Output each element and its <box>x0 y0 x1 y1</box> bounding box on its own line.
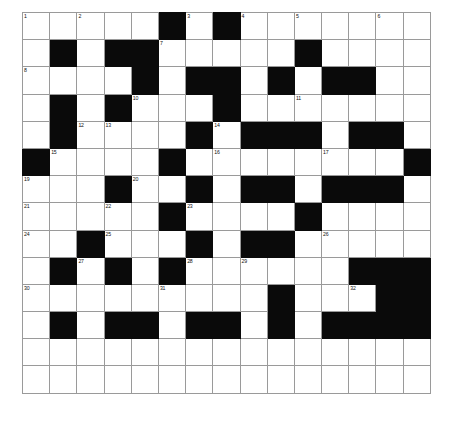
crossword-open-cell[interactable] <box>77 94 104 121</box>
crossword-open-cell[interactable] <box>213 203 240 230</box>
crossword-open-cell[interactable]: 15 <box>50 148 77 175</box>
crossword-open-cell[interactable] <box>376 148 403 175</box>
crossword-open-cell[interactable] <box>349 230 376 257</box>
crossword-open-cell[interactable] <box>403 67 430 94</box>
crossword-open-cell[interactable] <box>376 94 403 121</box>
crossword-open-cell[interactable] <box>240 339 267 366</box>
crossword-open-cell[interactable]: 27 <box>77 257 104 284</box>
crossword-open-cell[interactable] <box>186 339 213 366</box>
crossword-open-cell[interactable] <box>322 121 349 148</box>
crossword-open-cell[interactable] <box>104 339 131 366</box>
crossword-open-cell[interactable] <box>131 366 158 393</box>
crossword-open-cell[interactable] <box>50 203 77 230</box>
crossword-open-cell[interactable] <box>240 284 267 311</box>
crossword-open-cell[interactable] <box>131 148 158 175</box>
crossword-open-cell[interactable] <box>349 13 376 40</box>
crossword-open-cell[interactable] <box>376 230 403 257</box>
crossword-open-cell[interactable] <box>213 257 240 284</box>
crossword-open-cell[interactable]: 1 <box>23 13 50 40</box>
crossword-open-cell[interactable] <box>322 203 349 230</box>
crossword-open-cell[interactable]: 21 <box>23 203 50 230</box>
crossword-open-cell[interactable] <box>322 94 349 121</box>
crossword-open-cell[interactable] <box>23 366 50 393</box>
crossword-open-cell[interactable] <box>50 176 77 203</box>
crossword-open-cell[interactable] <box>213 284 240 311</box>
crossword-open-cell[interactable] <box>131 339 158 366</box>
crossword-open-cell[interactable] <box>403 121 430 148</box>
crossword-open-cell[interactable] <box>158 230 185 257</box>
crossword-open-cell[interactable] <box>23 94 50 121</box>
crossword-open-cell[interactable] <box>213 230 240 257</box>
crossword-open-cell[interactable]: 26 <box>322 230 349 257</box>
crossword-open-cell[interactable] <box>50 284 77 311</box>
crossword-open-cell[interactable] <box>349 366 376 393</box>
crossword-open-cell[interactable]: 32 <box>349 284 376 311</box>
crossword-open-cell[interactable] <box>77 40 104 67</box>
crossword-open-cell[interactable] <box>186 284 213 311</box>
crossword-open-cell[interactable]: 7 <box>158 40 185 67</box>
crossword-open-cell[interactable] <box>158 121 185 148</box>
crossword-open-cell[interactable] <box>240 312 267 339</box>
crossword-open-cell[interactable] <box>158 366 185 393</box>
crossword-open-cell[interactable] <box>104 13 131 40</box>
crossword-open-cell[interactable] <box>104 284 131 311</box>
crossword-open-cell[interactable] <box>104 366 131 393</box>
crossword-open-cell[interactable] <box>349 203 376 230</box>
crossword-open-cell[interactable]: 17 <box>322 148 349 175</box>
crossword-open-cell[interactable] <box>158 94 185 121</box>
crossword-open-cell[interactable] <box>376 339 403 366</box>
crossword-open-cell[interactable]: 23 <box>186 203 213 230</box>
crossword-open-cell[interactable] <box>294 312 321 339</box>
crossword-open-cell[interactable] <box>50 339 77 366</box>
crossword-open-cell[interactable] <box>403 94 430 121</box>
crossword-open-cell[interactable] <box>267 40 294 67</box>
crossword-open-cell[interactable] <box>322 257 349 284</box>
crossword-open-cell[interactable]: 6 <box>376 13 403 40</box>
crossword-open-cell[interactable] <box>349 94 376 121</box>
crossword-open-cell[interactable]: 4 <box>240 13 267 40</box>
crossword-open-cell[interactable] <box>294 366 321 393</box>
crossword-open-cell[interactable] <box>186 40 213 67</box>
crossword-open-cell[interactable] <box>77 284 104 311</box>
crossword-open-cell[interactable] <box>131 284 158 311</box>
crossword-open-cell[interactable] <box>240 67 267 94</box>
crossword-open-cell[interactable]: 2 <box>77 13 104 40</box>
crossword-open-cell[interactable]: 30 <box>23 284 50 311</box>
crossword-open-cell[interactable] <box>23 121 50 148</box>
crossword-open-cell[interactable] <box>77 148 104 175</box>
crossword-open-cell[interactable] <box>294 257 321 284</box>
crossword-open-cell[interactable] <box>240 148 267 175</box>
crossword-open-cell[interactable] <box>376 40 403 67</box>
crossword-open-cell[interactable]: 19 <box>23 176 50 203</box>
crossword-open-cell[interactable] <box>294 230 321 257</box>
crossword-open-cell[interactable] <box>294 67 321 94</box>
crossword-open-cell[interactable] <box>50 13 77 40</box>
crossword-open-cell[interactable]: 11 <box>294 94 321 121</box>
crossword-open-cell[interactable] <box>240 40 267 67</box>
crossword-open-cell[interactable] <box>349 148 376 175</box>
crossword-open-cell[interactable] <box>240 94 267 121</box>
crossword-open-cell[interactable]: 10 <box>131 94 158 121</box>
crossword-open-cell[interactable]: 13 <box>104 121 131 148</box>
crossword-open-cell[interactable] <box>131 203 158 230</box>
crossword-open-cell[interactable] <box>213 40 240 67</box>
crossword-open-cell[interactable] <box>294 148 321 175</box>
crossword-grid[interactable]: 1234567810111213141516171920212223242526… <box>22 12 431 394</box>
crossword-open-cell[interactable] <box>23 40 50 67</box>
crossword-open-cell[interactable] <box>77 339 104 366</box>
crossword-open-cell[interactable] <box>267 13 294 40</box>
crossword-open-cell[interactable] <box>23 257 50 284</box>
crossword-open-cell[interactable] <box>294 176 321 203</box>
crossword-open-cell[interactable] <box>131 257 158 284</box>
crossword-open-cell[interactable] <box>158 312 185 339</box>
crossword-open-cell[interactable]: 22 <box>104 203 131 230</box>
crossword-open-cell[interactable] <box>23 312 50 339</box>
crossword-open-cell[interactable] <box>376 67 403 94</box>
crossword-open-cell[interactable]: 28 <box>186 257 213 284</box>
crossword-open-cell[interactable] <box>158 67 185 94</box>
crossword-open-cell[interactable] <box>322 339 349 366</box>
crossword-open-cell[interactable] <box>267 339 294 366</box>
crossword-open-cell[interactable] <box>186 366 213 393</box>
crossword-open-cell[interactable] <box>131 230 158 257</box>
crossword-open-cell[interactable]: 5 <box>294 13 321 40</box>
